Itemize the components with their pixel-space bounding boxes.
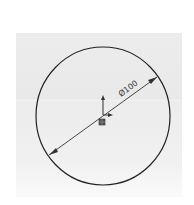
sketch-drawing: Ø100 (0, 0, 194, 205)
dimension-label[interactable]: Ø100 (116, 78, 139, 99)
diameter-dimension[interactable]: Ø100 (49, 77, 157, 155)
